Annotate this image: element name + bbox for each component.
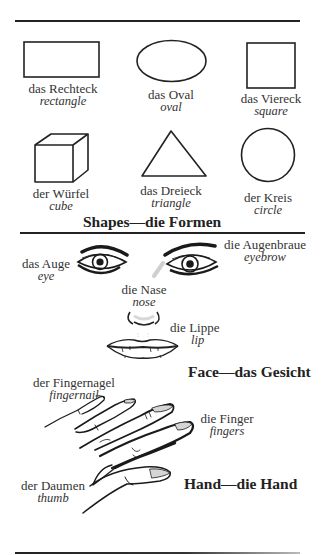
label-nose: die Nase nose bbox=[112, 283, 176, 309]
rectangle-shape-icon bbox=[24, 42, 99, 77]
english-word: eye bbox=[14, 270, 78, 283]
oval-shape-icon bbox=[137, 41, 206, 82]
english-word: oval bbox=[121, 101, 221, 114]
label-eyebrow: die Augenbraue eyebrow bbox=[215, 238, 315, 264]
english-word: rectangle bbox=[13, 95, 113, 108]
label-eye: das Auge eye bbox=[14, 257, 78, 283]
eye-icon bbox=[78, 247, 127, 273]
label-triangle: das Dreieck triangle bbox=[121, 184, 221, 210]
hand-section-title: Hand—die Hand bbox=[184, 475, 297, 493]
fingers-icon bbox=[45, 396, 193, 468]
label-thumb: der Daumen thumb bbox=[16, 479, 90, 505]
english-word: circle bbox=[218, 204, 318, 217]
english-word: fingers bbox=[194, 425, 260, 438]
square-shape-icon bbox=[247, 43, 295, 88]
english-word: lip bbox=[170, 334, 240, 347]
cube-shape-icon bbox=[35, 134, 88, 182]
label-circle: der Kreis circle bbox=[218, 191, 318, 217]
label-fingers: die Finger fingers bbox=[194, 412, 260, 438]
thumb-icon bbox=[83, 443, 175, 513]
label-fingernail: der Fingernagel fingernail bbox=[24, 376, 124, 402]
english-word: triangle bbox=[121, 197, 221, 210]
english-word: nose bbox=[112, 296, 176, 309]
label-lip: die Lippe lip bbox=[170, 321, 240, 347]
english-word: fingernail bbox=[24, 389, 124, 402]
circle-shape-icon bbox=[242, 129, 295, 182]
english-word: eyebrow bbox=[215, 251, 315, 264]
english-word: square bbox=[221, 105, 321, 118]
label-oval: das Oval oval bbox=[121, 88, 221, 114]
german-word: die Lippe bbox=[170, 321, 240, 334]
label-rectangle: das Rechteck rectangle bbox=[13, 82, 113, 108]
label-square: das Viereck square bbox=[221, 92, 321, 118]
shapes-section-title: Shapes—die Formen bbox=[83, 213, 221, 231]
triangle-shape-icon bbox=[142, 131, 206, 176]
lip-icon bbox=[107, 340, 178, 359]
right-eye-icon bbox=[167, 255, 218, 274]
label-cube: der Würfel cube bbox=[11, 187, 111, 213]
face-section-title: Face—das Gesicht bbox=[188, 363, 311, 381]
english-word: cube bbox=[11, 200, 111, 213]
eyebrow-icon bbox=[165, 244, 215, 255]
english-word: thumb bbox=[16, 492, 90, 505]
